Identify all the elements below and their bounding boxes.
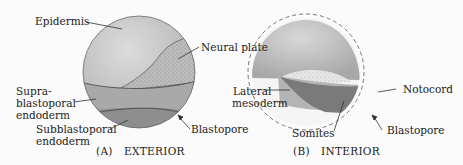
label-supra-3: endoderm xyxy=(16,109,70,121)
label-notocord: Notocord xyxy=(403,83,453,95)
label-epidermis: Epidermis xyxy=(35,15,89,27)
exterior-sphere xyxy=(80,16,200,140)
caption-a-letter: (A) xyxy=(96,145,113,157)
label-supra-2: blastoporal xyxy=(16,97,76,109)
interior-sphere xyxy=(250,18,378,126)
label-somites: Somites xyxy=(292,127,335,139)
label-subblastoporal-1: Subblastoporal xyxy=(36,123,117,135)
label-blastopore-a: Blastopore xyxy=(191,123,249,135)
label-supra-1: Supra- xyxy=(16,85,52,97)
caption-b-title: INTERIOR xyxy=(321,145,380,157)
label-lateral-1: Lateral xyxy=(233,85,271,97)
embryo-diagram: Epidermis Neural plate Supra- blastopora… xyxy=(0,0,463,165)
label-lateral-2: mesoderm xyxy=(232,97,288,109)
label-neural-plate: Neural plate xyxy=(201,41,268,53)
label-blastopore-b: Blastopore xyxy=(387,124,445,136)
label-subblastoporal-2: endoderm xyxy=(36,135,90,147)
caption-b-letter: (B) xyxy=(293,145,310,157)
caption-a-title: EXTERIOR xyxy=(124,145,185,157)
